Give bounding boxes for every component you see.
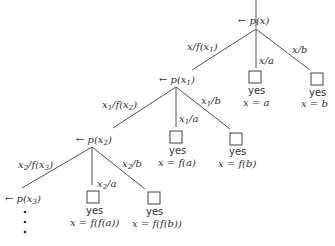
leaf-answer-a: x = a: [243, 97, 269, 108]
edge-label-root-n1: x/f(x1): [187, 41, 218, 54]
node-n2: ← p(x2): [76, 134, 112, 147]
leaf-status-ffb: yes: [146, 206, 163, 217]
leaf-box-ffb: [148, 192, 160, 204]
node-n1: ← p(x1): [159, 74, 195, 87]
node-root: ← p(x): [238, 15, 270, 26]
edge-label-n2-n3: x2/f(x3): [18, 159, 53, 172]
leaf-answer-ffb: x = f(f(b)): [132, 218, 182, 229]
leaf-box-ffa: [87, 191, 99, 203]
edge-label-n1-fa: x1/a: [179, 113, 198, 126]
leaf-status-a: yes: [248, 85, 265, 96]
edge-label-root-a: x/a: [259, 55, 274, 66]
edge-label-root-b: x/b: [292, 44, 307, 55]
leaf-answer-b: x = b: [301, 98, 328, 109]
edge-label-n2-ffb: x2/b: [122, 158, 142, 171]
leaf-status-b: yes: [309, 87, 326, 98]
leaf-box-fa: [170, 131, 182, 143]
leaf-status-fa: yes: [169, 145, 186, 156]
leaf-answer-ffa: x = f(f(a)): [70, 217, 119, 228]
leaf-status-fb: yes: [229, 146, 246, 157]
search-tree-diagram: ← p(x) ← p(x1) ← p(x2) ← p(x3) x/f(x1) x…: [0, 0, 335, 246]
leaf-answer-fb: x = f(b): [218, 158, 256, 169]
leaf-box-fb: [230, 133, 242, 145]
edge-label-n1-fb: x1/b: [201, 95, 221, 108]
node-n3: ← p(x3): [5, 193, 41, 206]
leaf-status-ffa: yes: [86, 205, 103, 216]
edge-label-n1-n2: x1/f(x2): [102, 99, 137, 112]
leaf-box-a: [249, 71, 261, 83]
leaf-box-b: [311, 73, 323, 85]
continuation-dots: [24, 211, 27, 234]
edge-label-n2-ffa: x2/a: [97, 178, 116, 191]
leaf-answer-fa: x = f(a): [158, 157, 196, 168]
